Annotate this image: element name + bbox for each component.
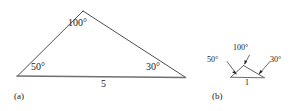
large-triangle-right-side <box>83 11 185 77</box>
leader-arrow-100 <box>244 55 249 65</box>
small-triangle-base-label: 1 <box>245 79 249 87</box>
figure-svg <box>0 0 300 111</box>
large-triangle-angle-left-label: 50° <box>31 62 45 72</box>
caption-a: (a) <box>14 92 24 101</box>
small-triangle-angle-left-label: 50° <box>207 56 218 64</box>
leader-arrow-30 <box>259 62 270 75</box>
small-triangle-angle-right-label: 30° <box>270 56 281 64</box>
small-triangle-left-side <box>231 66 244 78</box>
caption-b: (b) <box>212 92 223 101</box>
large-triangle-base-label: 5 <box>101 79 106 89</box>
large-triangle-angle-right-label: 30° <box>146 62 160 72</box>
large-triangle-angle-apex-label: 100° <box>68 18 87 28</box>
small-triangle-shape <box>231 66 265 78</box>
small-triangle-angle-apex-label: 100° <box>233 44 248 52</box>
geometry-figure: 50° 100° 30° 5 (a) 50° 100° 30° 1 (b) <box>0 0 300 111</box>
leader-arrow-50 <box>227 62 237 75</box>
